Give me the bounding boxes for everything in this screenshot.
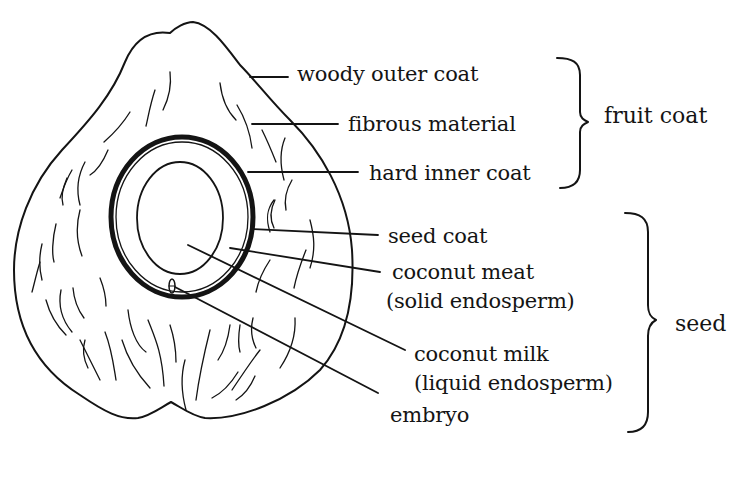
seed-brace (625, 213, 656, 432)
label-fibrous-material: fibrous material (348, 112, 516, 136)
hard-inner-coat-ring (111, 137, 253, 297)
fruit-coat-brace (557, 58, 588, 188)
leader-embryo (175, 287, 378, 393)
label-hard-inner-coat: hard inner coat (369, 161, 530, 185)
group-label-seed: seed (675, 312, 726, 336)
label-coconut-milk-sub: (liquid endosperm) (414, 371, 613, 395)
leader-seed-coat (252, 229, 378, 235)
leader-coconut-milk (188, 245, 405, 350)
fiber-strands (32, 72, 314, 410)
coconut-milk-cavity (137, 162, 223, 274)
label-coconut-meat-sub: (solid endosperm) (386, 289, 575, 313)
label-coconut-meat: coconut meat (392, 260, 534, 284)
label-embryo: embryo (390, 403, 469, 427)
group-label-fruit-coat: fruit coat (604, 104, 707, 128)
label-seed-coat: seed coat (388, 224, 487, 248)
seed-coat-ring (116, 142, 248, 292)
label-woody-outer-coat: woody outer coat (297, 62, 478, 86)
label-coconut-milk: coconut milk (414, 342, 549, 366)
